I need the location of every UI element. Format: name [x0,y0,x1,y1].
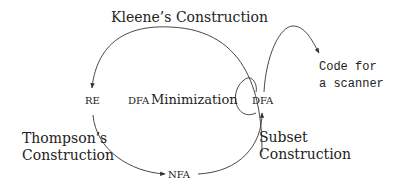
scanner-code-label-line1: Code for [319,60,377,74]
kleene-construction-label: Kleene’s Construction [111,9,268,25]
dfa-node: DFA [252,95,274,106]
nfa-node: NFA [168,169,191,180]
scanner-code-label-line2: a scanner [319,77,384,91]
dfa-minimization-label: Minimization [151,92,238,107]
subset-construction-label-line2: Construction [259,146,351,162]
compiler-construction-cycle-diagram: Kleene’s Construction RE DFA Minimizatio… [0,0,397,190]
subset-construction-label-line1: Subset [259,129,308,145]
thompson-construction-label-line2: Construction [22,147,114,163]
code-generation-edge [264,26,319,92]
subset-construction-edge [198,113,262,174]
thompson-construction-label-line1: Thompson’s [22,130,107,146]
dfa-minimization-prefix: DFA [128,95,150,106]
re-node: RE [85,95,100,106]
